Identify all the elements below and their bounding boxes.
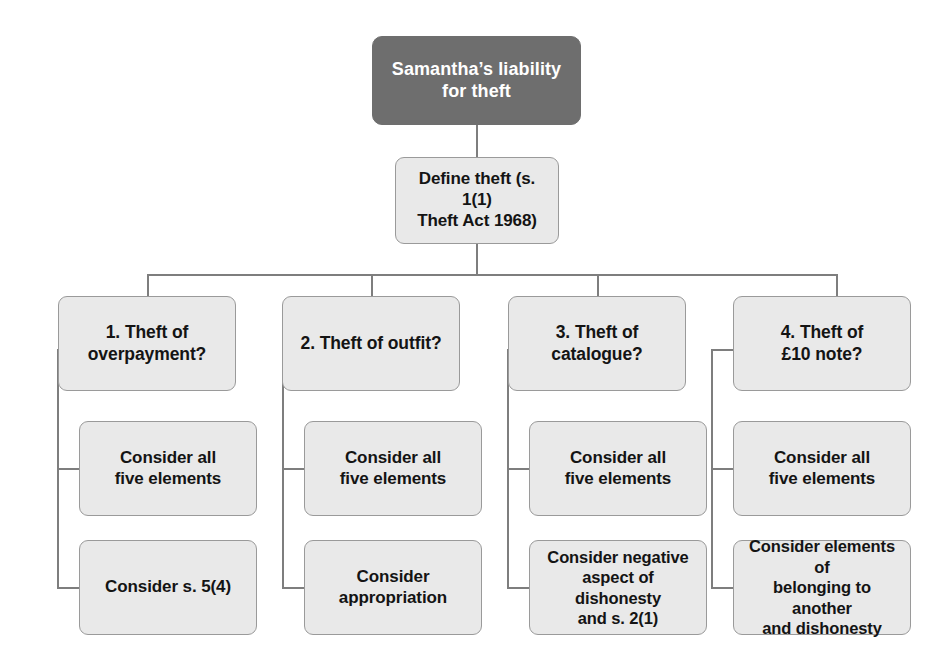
node-branch-1-heading-line-1: 1. Theft of [88,322,206,343]
node-branch-2-heading-line-1: 2. Theft of outfit? [301,333,442,354]
node-branch-3-step-1-line-2: five elements [565,469,671,490]
node-branch-2-step-1-line-2: five elements [340,469,446,490]
connector-bus-to-branch-2 [371,274,373,296]
connector-root-to-define [476,124,478,157]
node-branch-1-step-1-line-2: five elements [115,469,221,490]
node-branch-1-step-1: Consider all five elements [79,421,257,516]
node-branch-1-step-2: Consider s. 5(4) [79,540,257,635]
node-define-line-2: Theft Act 1968) [404,211,550,232]
node-branch-3-step-2: Consider negative aspect of dishonesty a… [529,540,707,635]
node-branch-4-step-2-line-2: belonging to another [742,577,902,618]
connector-stub-branch-2-step-2 [282,587,305,589]
node-branch-4-step-2: Consider elements of belonging to anothe… [733,540,911,635]
node-branch-4-step-1-line-1: Consider all [769,448,875,469]
node-branch-4-heading: 4. Theft of £10 note? [733,296,911,391]
node-root-line-2: for theft [392,81,561,103]
connector-horizontal-bus [147,274,837,276]
node-branch-2-step-1-line-1: Consider all [340,448,446,469]
node-branch-3-step-1-line-1: Consider all [565,448,671,469]
node-branch-1-heading: 1. Theft of overpayment? [58,296,236,391]
connector-stub-branch-4-step-1 [711,468,734,470]
node-branch-3-heading-line-2: catalogue? [551,344,642,365]
node-root-title: Samantha’s liability for theft [372,36,581,125]
node-root-line-1: Samantha’s liability [392,59,561,81]
connector-bus-to-branch-1 [147,274,149,296]
connector-bus-to-branch-3 [597,274,599,296]
node-branch-2-heading: 2. Theft of outfit? [282,296,460,391]
node-branch-3-heading: 3. Theft of catalogue? [508,296,686,391]
connector-stub-branch-1-step-1 [57,468,80,470]
connector-bus-to-branch-4 [836,274,838,296]
connector-stub-branch-4-step-2 [711,587,734,589]
node-branch-2-step-2: Consider appropriation [304,540,482,635]
node-branch-4-step-2-line-1: Consider elements of [742,536,902,577]
node-branch-4-heading-line-1: 4. Theft of [781,322,864,343]
flowchart-canvas: Samantha’s liability for theft Define th… [0,0,951,671]
node-branch-3-heading-line-1: 3. Theft of [551,322,642,343]
node-branch-4-step-2-line-3: and dishonesty [742,618,902,638]
node-branch-1-heading-line-2: overpayment? [88,344,206,365]
node-branch-1-step-1-line-1: Consider all [115,448,221,469]
node-branch-2-step-2-line-1: Consider [339,567,447,588]
node-branch-3-step-2-line-1: Consider negative [538,547,698,567]
node-branch-2-step-2-line-2: appropriation [339,588,447,609]
node-branch-4-step-1-line-2: five elements [769,469,875,490]
node-branch-3-step-2-line-3: and s. 2(1) [538,608,698,628]
node-define-theft: Define theft (s. 1(1) Theft Act 1968) [395,157,559,244]
connector-stub-branch-4-heading [711,349,734,351]
connector-stub-branch-1-step-2 [57,587,80,589]
node-branch-3-step-1: Consider all five elements [529,421,707,516]
node-branch-4-heading-line-2: £10 note? [781,344,864,365]
connector-stub-branch-3-step-1 [507,468,530,470]
node-branch-4-step-1: Consider all five elements [733,421,911,516]
connector-define-to-bus [476,243,478,275]
node-branch-1-step-2-line-1: Consider s. 5(4) [105,577,231,598]
node-define-line-1: Define theft (s. 1(1) [404,169,550,210]
connector-stub-branch-3-step-2 [507,587,530,589]
node-branch-3-step-2-line-2: aspect of dishonesty [538,567,698,608]
connector-stub-branch-2-step-1 [282,468,305,470]
node-branch-2-step-1: Consider all five elements [304,421,482,516]
